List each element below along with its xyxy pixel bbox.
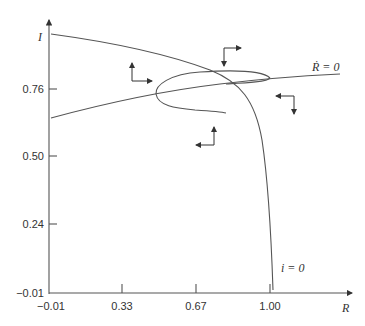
x-tick-label: −0.01 bbox=[37, 300, 65, 312]
x-tick-label: 0.33 bbox=[111, 300, 132, 312]
idot-zero-curve bbox=[51, 34, 273, 290]
y-tick-label: 0.24 bbox=[23, 218, 44, 230]
rdot-zero-label: Ṙ = 0 bbox=[311, 60, 339, 74]
y-tick-label: 0.50 bbox=[23, 150, 44, 162]
phase-arrow-upper-left bbox=[132, 63, 152, 81]
rdot-zero-curve bbox=[51, 74, 340, 118]
x-tick-label: 0.67 bbox=[185, 300, 206, 312]
phase-arrow-lower bbox=[196, 127, 214, 145]
y-tick-label: −0.01 bbox=[16, 287, 44, 299]
phase-diagram: I R 0.76 0.50 0.24 −0.01 −0.01 0.33 0.67… bbox=[0, 0, 365, 326]
y-tick-label: 0.76 bbox=[23, 83, 44, 95]
phase-arrow-upper-middle bbox=[224, 48, 241, 66]
x-axis-label: R bbox=[341, 301, 350, 315]
trajectory-spiral bbox=[156, 71, 270, 113]
x-tick-label: 1.00 bbox=[259, 300, 280, 312]
idot-zero-label: i = 0 bbox=[281, 261, 304, 275]
y-axis-label: I bbox=[37, 30, 43, 44]
phase-arrow-right bbox=[276, 96, 294, 114]
